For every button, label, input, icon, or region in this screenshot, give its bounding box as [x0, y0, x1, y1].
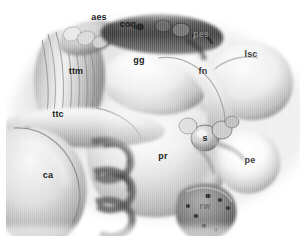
anatomy-render	[0, 0, 308, 245]
anatomy-figure: aes coq pes lsc gg ttm fn ttc s pr pe ca…	[0, 0, 308, 245]
